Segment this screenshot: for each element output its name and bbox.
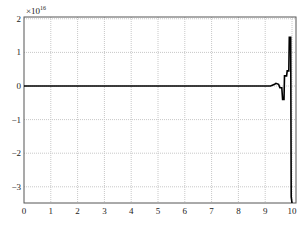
plot-area-border bbox=[24, 17, 296, 203]
y-tick-label: 0 bbox=[17, 81, 22, 91]
x-tick-label: 10 bbox=[288, 206, 298, 216]
x-tick-label: 1 bbox=[49, 206, 54, 216]
x-tick-label: 0 bbox=[22, 206, 27, 216]
x-tick-label: 3 bbox=[102, 206, 107, 216]
x-tick-label: 5 bbox=[156, 206, 161, 216]
line-chart: 012345678910 210−1−2−3 ×1016 bbox=[0, 0, 306, 229]
x-axis-ticks: 012345678910 bbox=[22, 206, 297, 216]
y-axis-ticks: 210−1−2−3 bbox=[11, 14, 21, 192]
x-tick-label: 8 bbox=[236, 206, 241, 216]
x-tick-label: 4 bbox=[129, 206, 134, 216]
y-tick-label: −2 bbox=[11, 148, 21, 158]
gridlines bbox=[24, 17, 296, 203]
x-tick-label: 2 bbox=[75, 206, 80, 216]
y-tick-label: −1 bbox=[11, 115, 21, 125]
y-tick-label: 2 bbox=[17, 14, 22, 24]
x-tick-label: 6 bbox=[183, 206, 188, 216]
y-scale-exponent: ×1016 bbox=[26, 5, 46, 16]
x-tick-label: 9 bbox=[263, 206, 268, 216]
x-tick-label: 7 bbox=[209, 206, 214, 216]
y-tick-label: −3 bbox=[11, 182, 21, 192]
signal-line bbox=[24, 37, 292, 203]
y-tick-label: 1 bbox=[17, 47, 22, 57]
